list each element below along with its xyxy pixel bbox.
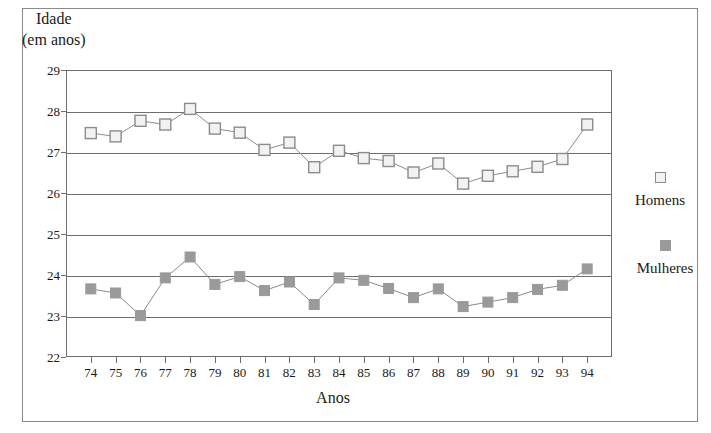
x-tick-mark-80 [240, 357, 241, 363]
gridline-27 [67, 153, 611, 154]
legend-item-mulheres: Mulheres [620, 240, 710, 277]
y-tick-mark-22 [61, 357, 66, 358]
x-tick-mark-76 [140, 357, 141, 363]
x-tick-mark-90 [488, 357, 489, 363]
y-tick-mark-23 [61, 316, 66, 317]
legend-swatch-open-square [655, 172, 666, 183]
y-tick-label-27: 27 [26, 146, 60, 159]
x-tick-mark-89 [463, 357, 464, 363]
legend-label-homens: Homens [635, 192, 685, 208]
y-axis-label-line1: Idade [36, 9, 72, 29]
legend-item-homens: Homens [620, 172, 700, 209]
plot-area [66, 70, 612, 357]
x-tick-mark-81 [265, 357, 266, 363]
gridline-23 [67, 317, 611, 318]
x-tick-mark-94 [587, 357, 588, 363]
x-tick-mark-77 [165, 357, 166, 363]
x-axis-label: Anos [0, 389, 666, 407]
y-tick-mark-29 [61, 70, 66, 71]
chart-figure: Idade (em anos) 29 28 27 26 25 24 23 22 … [0, 0, 711, 433]
y-axis-label-line2: (em anos) [22, 30, 86, 50]
x-tick-mark-84 [339, 357, 340, 363]
x-tick-mark-88 [438, 357, 439, 363]
x-tick-mark-74 [91, 357, 92, 363]
y-tick-label-24: 24 [26, 269, 60, 282]
legend-label-mulheres: Mulheres [637, 260, 694, 276]
x-tick-mark-75 [116, 357, 117, 363]
y-tick-label-26: 26 [26, 187, 60, 200]
x-tick-mark-93 [562, 357, 563, 363]
y-tick-label-25: 25 [26, 228, 60, 241]
y-tick-label-29: 29 [26, 64, 60, 77]
x-tick-mark-92 [538, 357, 539, 363]
y-tick-label-28: 28 [26, 105, 60, 118]
gridline-26 [67, 194, 611, 195]
y-tick-mark-25 [61, 234, 66, 235]
y-tick-label-22: 22 [26, 351, 60, 364]
x-tick-mark-86 [389, 357, 390, 363]
x-tick-mark-91 [513, 357, 514, 363]
gridline-24 [67, 276, 611, 277]
x-tick-mark-79 [215, 357, 216, 363]
y-tick-mark-28 [61, 111, 66, 112]
legend-swatch-filled-square [660, 240, 671, 251]
x-tick-label-94: 94 [572, 366, 602, 379]
x-tick-mark-82 [289, 357, 290, 363]
x-tick-mark-87 [413, 357, 414, 363]
y-tick-label-23: 23 [26, 310, 60, 323]
y-tick-mark-24 [61, 275, 66, 276]
x-tick-mark-83 [314, 357, 315, 363]
x-tick-mark-85 [364, 357, 365, 363]
y-tick-mark-27 [61, 152, 66, 153]
gridline-25 [67, 235, 611, 236]
x-tick-mark-78 [190, 357, 191, 363]
gridline-28 [67, 112, 611, 113]
y-tick-mark-26 [61, 193, 66, 194]
